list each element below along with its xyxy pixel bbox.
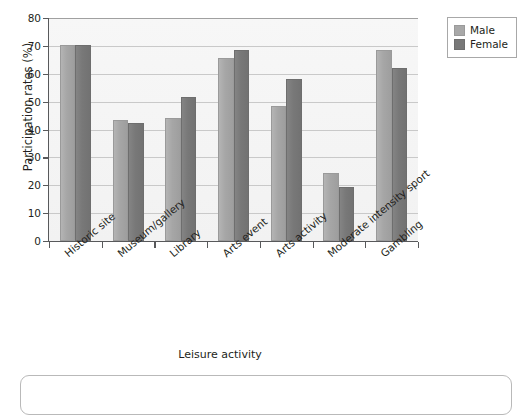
x-axis-tick [365, 242, 366, 248]
y-axis-tick [43, 46, 49, 47]
bar-male-1 [113, 120, 129, 241]
y-axis-tick [43, 130, 49, 131]
bar-male-4 [271, 106, 287, 241]
bar-female-4 [286, 79, 302, 241]
legend-swatch-male-icon [454, 25, 465, 36]
x-axis-tick [49, 242, 50, 248]
bar-female-3 [234, 50, 250, 241]
bar-male-3 [218, 58, 234, 241]
bar-male-2 [165, 118, 181, 241]
legend-swatch-female-icon [454, 39, 465, 50]
x-axis-tick [102, 242, 103, 248]
y-axis-tick [43, 185, 49, 186]
bar-male-0 [60, 45, 76, 241]
x-axis-tick [260, 242, 261, 248]
y-axis-tick [43, 74, 49, 75]
bar-female-1 [128, 123, 144, 241]
y-axis-tick [43, 102, 49, 103]
legend-label-male: Male [470, 25, 495, 37]
y-axis-tick [43, 157, 49, 158]
y-axis-tick-label: 10 [0, 208, 41, 219]
x-axis-title: Leisure activity [0, 348, 440, 361]
y-axis-tick [43, 213, 49, 214]
chart-legend: Male Female [447, 17, 517, 58]
x-axis-tick [154, 242, 155, 248]
y-axis-tick [43, 18, 49, 19]
legend-item-male: Male [454, 25, 510, 37]
bars-layer [49, 18, 418, 241]
bar-female-0 [75, 45, 91, 241]
x-axis-tick [207, 242, 208, 248]
legend-label-female: Female [470, 39, 508, 51]
y-axis-title: Participation rates (%) [21, 17, 35, 197]
legend-item-female: Female [454, 39, 510, 51]
bar-male-5 [323, 173, 339, 241]
bottom-panel [20, 375, 512, 415]
bar-female-2 [181, 97, 197, 241]
y-axis-tick-label: 0 [0, 236, 41, 247]
x-axis-tick [313, 242, 314, 248]
x-axis-tick [418, 242, 419, 248]
bar-female-6 [392, 68, 408, 241]
